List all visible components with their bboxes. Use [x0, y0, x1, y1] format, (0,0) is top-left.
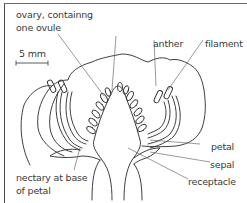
label-ovary-line2: one ovule: [16, 22, 61, 34]
label-anther: anther: [153, 38, 183, 50]
label-ovary-line1: ovary, containng: [16, 9, 93, 21]
sepal-right: [134, 148, 160, 164]
sepal-left: [50, 149, 100, 160]
diagram-frame: ovary, containng one ovule 5 mm anther f…: [0, 0, 247, 203]
label-receptacle: receptacle: [188, 176, 236, 188]
label-filament: filament: [205, 38, 243, 50]
label-nectary-line1: nectary at base: [16, 172, 87, 184]
scale-bar: [16, 61, 48, 66]
label-sepal: sepal: [210, 159, 234, 171]
label-nectary-line2: of petal: [16, 185, 51, 197]
label-petal: petal: [211, 141, 234, 153]
scale-bar-label: 5 mm: [19, 48, 46, 60]
